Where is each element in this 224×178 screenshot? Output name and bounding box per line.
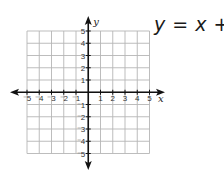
x-tick-label: 2: [111, 94, 116, 103]
tick-labels: ⁻5⁻4⁻3⁻2⁻11234554321⁻1⁻2⁻3⁻4⁻5xy: [23, 16, 164, 159]
x-tick-label: ⁻4: [35, 94, 44, 103]
x-tick-label: 3: [123, 94, 128, 103]
y-tick-label: ⁻5: [77, 150, 86, 159]
x-tick-label: 1: [98, 94, 103, 103]
x-tick-label: 4: [135, 94, 140, 103]
x-tick-label: 5: [147, 94, 152, 103]
y-tick-label: ⁻1: [77, 101, 86, 110]
y-tick-label: 4: [81, 39, 86, 48]
axes: [10, 16, 165, 170]
y-tick-label: 3: [81, 52, 86, 61]
equation-label: y = x + 4: [154, 13, 224, 35]
y-tick-label: ⁻4: [77, 137, 86, 146]
y-tick-label: 2: [81, 64, 86, 73]
equation-equals: =: [166, 13, 196, 35]
x-axis-label: x: [158, 93, 164, 104]
x-tick-label: ⁻3: [47, 94, 56, 103]
y-tick-label: 5: [81, 27, 86, 36]
y-tick-label: 1: [81, 76, 86, 85]
y-tick-label: ⁻3: [77, 125, 86, 134]
y-axis-label: y: [92, 16, 99, 27]
equation-lhs: y: [154, 13, 166, 35]
x-tick-label: ⁻5: [23, 94, 32, 103]
y-tick-label: ⁻2: [77, 113, 86, 122]
equation-rest: + 4: [207, 13, 224, 35]
equation-x: x: [195, 13, 207, 35]
x-tick-label: ⁻2: [60, 94, 69, 103]
